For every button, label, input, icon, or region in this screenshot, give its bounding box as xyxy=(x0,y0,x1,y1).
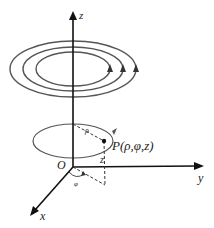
cylindrical-coordinates-diagram: z y x O ρ z φ P(ρ,φ,z) xyxy=(0,0,214,228)
z-axis-arrow-icon xyxy=(69,11,77,20)
phi-arc-arrow-icon xyxy=(81,171,86,176)
ring-arrow-icon xyxy=(107,64,113,72)
point-p-label: P(ρ,φ,z) xyxy=(111,138,154,153)
rho-label: ρ xyxy=(84,126,89,135)
z-height-line xyxy=(104,141,105,185)
y-axis-label: y xyxy=(197,171,204,185)
z-height-label: z xyxy=(99,154,104,165)
phi-label: φ xyxy=(74,180,78,188)
z-axis-label: z xyxy=(78,9,84,21)
x-axis-label: x xyxy=(39,209,46,223)
point-p xyxy=(102,139,106,143)
ring-p-arrow-icon xyxy=(112,128,117,135)
y-axis xyxy=(73,166,196,167)
x-axis xyxy=(35,167,73,210)
ring-arrow-icons xyxy=(107,64,139,72)
origin-label: O xyxy=(57,158,66,172)
ring-arrow-icon xyxy=(133,64,139,72)
y-axis-arrow-icon xyxy=(194,162,204,170)
ring-arrow-icon xyxy=(120,64,126,72)
